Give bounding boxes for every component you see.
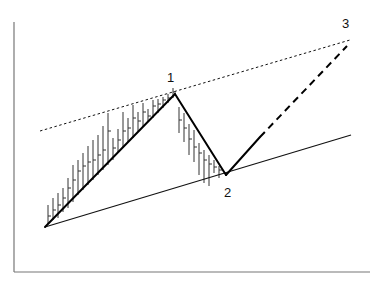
chart: 123: [0, 0, 378, 291]
wave-leg-2: [175, 94, 226, 175]
trend-lines: [40, 40, 351, 227]
wave-labels: 123: [167, 16, 349, 200]
wave-leg-3-projection: [260, 46, 347, 137]
upper-trendline: [40, 40, 350, 131]
wave-label-2: 2: [224, 185, 231, 200]
price-bars: [48, 88, 222, 224]
wave-label-1: 1: [167, 70, 174, 85]
wave-label-3: 3: [342, 16, 349, 31]
axes: [14, 22, 370, 272]
wave-leg-3-solid: [226, 137, 260, 175]
